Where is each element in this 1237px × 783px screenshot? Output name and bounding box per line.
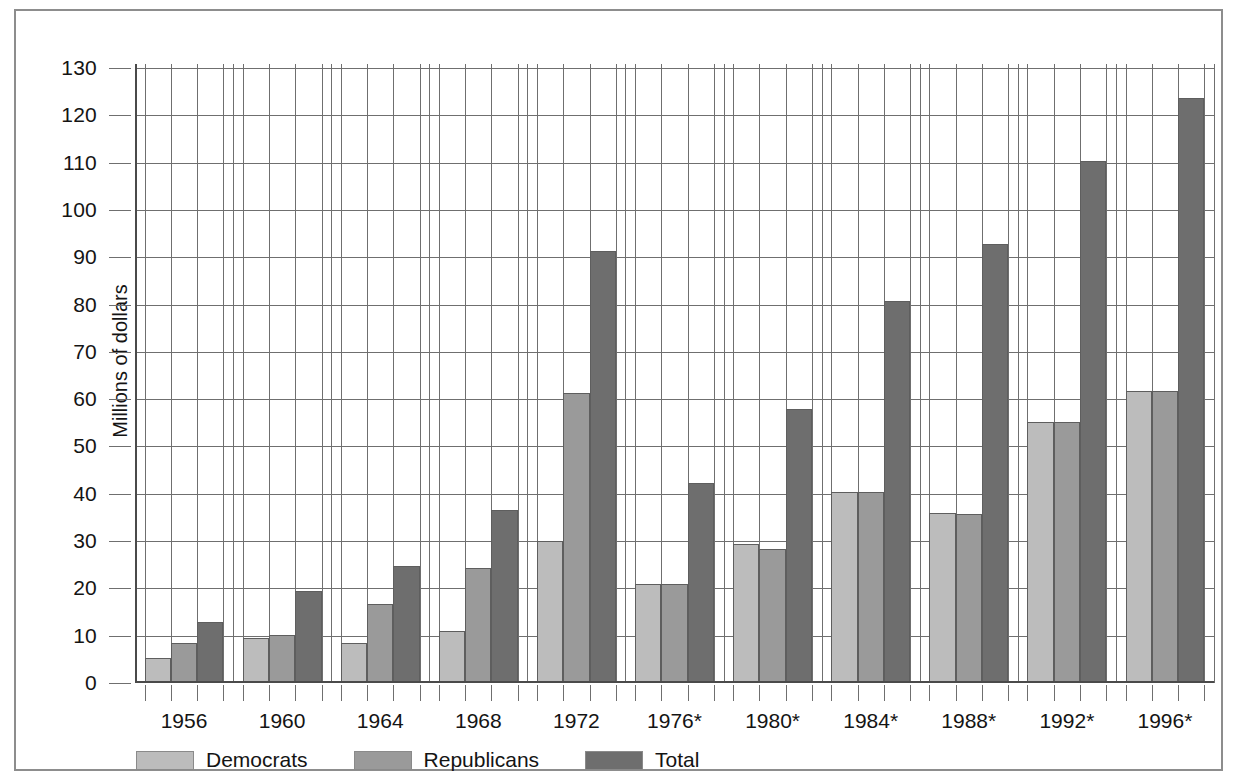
- x-tick: [295, 685, 296, 701]
- bar-total-1980: [786, 409, 812, 683]
- x-tick: [197, 685, 198, 701]
- y-axis-line: [135, 64, 137, 683]
- gridline-x-group-boundary: [1116, 64, 1117, 683]
- y-tick-label-10: 10: [73, 624, 97, 648]
- gridline-x-group-boundary: [429, 64, 430, 683]
- x-tick: [393, 685, 394, 701]
- y-axis-title-wrapper: Millions of dollars: [26, 221, 66, 501]
- bar-total-1988: [982, 244, 1008, 683]
- gridline-x-group-boundary: [625, 64, 626, 683]
- x-tick-label-1956: 1956: [161, 709, 208, 733]
- y-tick-label-120: 120: [61, 103, 97, 127]
- bar-democrats-1960: [243, 638, 269, 683]
- y-tick-label-40: 40: [73, 482, 97, 506]
- x-tick: [1178, 685, 1179, 701]
- x-tick: [733, 685, 734, 701]
- x-tick: [956, 685, 957, 701]
- bar-republicans-1972: [563, 393, 589, 683]
- bar-democrats-1996: [1126, 391, 1152, 683]
- bar-total-1984: [884, 301, 910, 683]
- bar-democrats-1968: [439, 631, 465, 684]
- x-tick: [1054, 685, 1055, 701]
- x-tick: [759, 685, 760, 701]
- bar-republicans-1988: [956, 514, 982, 683]
- bar-democrats-1976: [635, 584, 661, 683]
- x-tick: [465, 685, 466, 701]
- gridline-y-60: [135, 399, 1214, 400]
- gridline-y-110: [135, 163, 1214, 164]
- gridline-y-100: [135, 210, 1214, 211]
- x-tick: [688, 685, 689, 701]
- x-tick: [635, 685, 636, 701]
- bar-republicans-1956: [171, 643, 197, 683]
- x-tick: [616, 685, 617, 701]
- plot-area: [135, 68, 1214, 683]
- y-axis-title: Millions of dollars: [109, 284, 132, 437]
- x-tick-label-1988: 1988*: [941, 709, 996, 733]
- gridline-x: [295, 64, 296, 683]
- x-tick: [982, 685, 983, 701]
- y-tick-label-30: 30: [73, 529, 97, 553]
- y-tick-label-80: 80: [73, 293, 97, 317]
- bar-total-1968: [491, 510, 517, 683]
- x-tick: [269, 685, 270, 701]
- x-tick: [1204, 685, 1205, 701]
- bar-democrats-1988: [929, 513, 955, 683]
- gridline-x: [518, 64, 519, 683]
- gridline-x-group-boundary: [724, 64, 725, 683]
- gridline-x-group-boundary: [920, 64, 921, 683]
- x-tick: [491, 685, 492, 701]
- bar-republicans-1996: [1152, 391, 1178, 683]
- y-tick-label-0: 0: [85, 671, 97, 695]
- x-tick: [1080, 685, 1081, 701]
- x-axis-line: [135, 681, 1214, 683]
- legend-label-dem: Democrats: [206, 748, 308, 772]
- x-tick-label-1984: 1984*: [843, 709, 898, 733]
- bar-total-1956: [197, 622, 223, 683]
- gridline-x: [616, 64, 617, 683]
- y-tick-dash-0: [109, 683, 131, 684]
- gridline-x: [812, 64, 813, 683]
- gridline-x: [243, 64, 244, 683]
- gridline-x-group-boundary: [527, 64, 528, 683]
- x-tick: [322, 685, 323, 701]
- bar-total-1960: [295, 591, 321, 683]
- x-tick-label-1972: 1972: [553, 709, 600, 733]
- y-tick-dash-120: [109, 115, 131, 116]
- gridline-x: [322, 64, 323, 683]
- legend-swatch-dem: [136, 751, 194, 770]
- gridline-x-group-boundary: [1214, 64, 1215, 683]
- gridline-x: [1204, 64, 1205, 683]
- gridline-x: [145, 64, 146, 683]
- bar-democrats-1972: [537, 541, 563, 683]
- bar-republicans-1976: [661, 584, 687, 683]
- x-tick: [243, 685, 244, 701]
- x-tick: [563, 685, 564, 701]
- bar-democrats-1984: [831, 492, 857, 683]
- bar-republicans-1980: [759, 549, 785, 683]
- y-tick-dash-110: [109, 163, 131, 164]
- gridline-x: [439, 64, 440, 683]
- x-tick: [661, 685, 662, 701]
- chart-page: Millions of dollars 01020304050607080901…: [0, 0, 1237, 783]
- bar-total-1976: [688, 483, 714, 683]
- x-tick-label-1992: 1992*: [1039, 709, 1094, 733]
- y-tick-label-110: 110: [63, 151, 97, 175]
- y-tick-dash-50: [109, 446, 131, 447]
- y-tick-dash-100: [109, 210, 131, 211]
- gridline-y-80: [135, 305, 1214, 306]
- gridline-y-130: [135, 68, 1214, 69]
- y-tick-dash-130: [109, 68, 131, 69]
- bar-republicans-1964: [367, 604, 393, 683]
- gridline-x: [1008, 64, 1009, 683]
- y-tick-dash-20: [109, 588, 131, 589]
- y-tick-dash-30: [109, 541, 131, 542]
- gridline-y-90: [135, 257, 1214, 258]
- y-tick-label-130: 130: [61, 56, 97, 80]
- bar-democrats-1992: [1027, 422, 1053, 683]
- x-tick: [439, 685, 440, 701]
- legend-item-rep: Republicans: [354, 748, 540, 772]
- gridline-x: [714, 64, 715, 683]
- legend-swatch-tot: [585, 751, 643, 770]
- x-tick-label-1968: 1968: [455, 709, 502, 733]
